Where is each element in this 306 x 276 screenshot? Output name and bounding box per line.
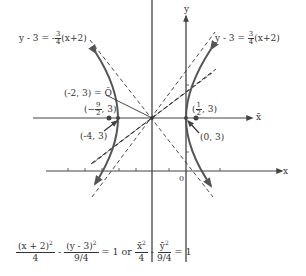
left-vertex-point <box>116 116 120 120</box>
center-point <box>150 116 154 120</box>
asymptote-positive-full <box>62 163 92 186</box>
right-focus-label: (12, 3) <box>192 102 217 117</box>
origin-label: 0 <box>179 175 184 183</box>
left-vertex-label: (−92, 3) <box>84 102 117 117</box>
right-vertex-label: (0, 3) <box>200 133 224 142</box>
asymptote-positive-label: y - 3 = 34(x+2) <box>215 31 280 46</box>
hyperbola-equation: (x + 2)24 - (y - 3)29/4 = 1 or x̄24 - ȳ2… <box>16 240 192 263</box>
right-vertex-point <box>184 116 188 120</box>
center-label: (-2, 3) = Ō <box>64 89 112 98</box>
right-vertex-pointer <box>188 121 199 133</box>
left-vertex-pointer <box>104 121 117 131</box>
asymptote-negative-label: y - 3 = -34(x+2) <box>19 31 87 46</box>
y-axis-label: y <box>184 5 189 14</box>
x-axis-label: x <box>283 167 288 176</box>
left-focus-label: (-4, 3) <box>80 132 107 141</box>
xbar-axis-label: x̄ <box>256 113 261 122</box>
